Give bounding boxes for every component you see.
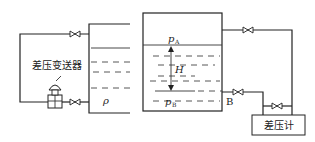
gauge-label: 差压计 <box>264 119 294 131</box>
level-measurement-diagram: ρ 差压变送器 <box>0 0 315 142</box>
balance-line <box>263 103 292 109</box>
upper-valve-icon <box>243 27 253 33</box>
lower-impulse-line <box>62 99 89 105</box>
balance-valve-icon <box>272 103 282 109</box>
pressure-a-label: p A <box>168 33 180 45</box>
closed-tank <box>143 13 222 111</box>
svg-text:B: B <box>172 101 177 108</box>
open-tank: ρ <box>89 24 130 113</box>
svg-text:p: p <box>168 33 175 44</box>
dp-transmitter-icon <box>48 76 62 108</box>
point-b-label: B <box>226 96 233 107</box>
height-arrow-icon <box>168 46 174 91</box>
transmitter-label: 差压变送器 <box>32 59 82 71</box>
dp-gauge: 差压计 <box>252 115 305 135</box>
left-figure: ρ 差压变送器 <box>20 24 130 113</box>
svg-text:A: A <box>174 38 180 45</box>
lower-valve-icon <box>70 99 80 105</box>
density-label: ρ <box>102 95 109 106</box>
height-label: H <box>174 64 184 75</box>
right-figure: p A H p B B <box>143 13 305 135</box>
lower-valve-icon <box>233 89 243 95</box>
pressure-b-label: p B <box>165 96 177 108</box>
svg-text:p: p <box>165 96 172 107</box>
upper-valve-icon <box>70 31 80 37</box>
